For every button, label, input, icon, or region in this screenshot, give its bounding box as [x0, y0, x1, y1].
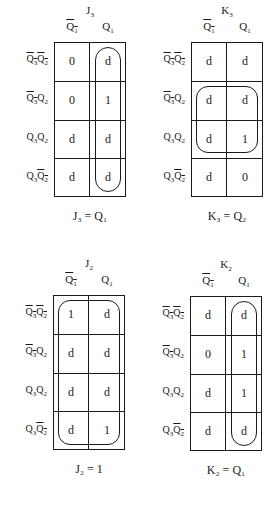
- variable-letter: Q: [163, 346, 170, 357]
- complement-variable: Q1: [66, 20, 77, 32]
- title-subscript: 3: [90, 11, 94, 19]
- grouping-loop: [231, 301, 257, 446]
- row-header: Q3Q2: [134, 424, 184, 438]
- complement-variable: Q2: [173, 307, 184, 318]
- variable-subscript: 2: [44, 390, 48, 398]
- variable: Q3: [27, 170, 38, 181]
- variable-letter: Q: [163, 424, 170, 435]
- column-header: Q1: [90, 20, 126, 35]
- variable-subscript: 2: [45, 137, 49, 145]
- variable-subscript: 2: [44, 351, 48, 359]
- equation-caption: K₃ = Q₂: [177, 209, 277, 224]
- equation-caption: J₃ = Q₁: [40, 209, 140, 224]
- row-header: Q3Q2: [0, 92, 48, 106]
- variable: Q1: [239, 20, 250, 32]
- variable: Q3: [26, 384, 37, 395]
- kmap-cell: 0: [227, 158, 263, 197]
- variable-letter: Q: [36, 384, 43, 395]
- grouping-loop: [196, 86, 258, 154]
- variable-letter: Q: [164, 131, 171, 142]
- variable-subscript: 1: [211, 27, 215, 35]
- variable-letter: Q: [36, 345, 43, 356]
- row-header: Q3Q2: [0, 345, 47, 359]
- column-header: Q1: [226, 274, 262, 289]
- grouping-loop: [58, 300, 120, 445]
- variable-letter: Q: [164, 170, 171, 181]
- variable-letter: Q: [173, 346, 180, 357]
- complement-variable: Q3: [163, 346, 174, 357]
- variable: Q2: [174, 92, 185, 103]
- variable-letter: Q: [36, 306, 43, 317]
- variable: Q2: [173, 346, 184, 357]
- variable: Q3: [164, 131, 175, 142]
- variable-letter: Q: [174, 131, 181, 142]
- row-header: Q3Q2: [0, 423, 47, 437]
- kmap-cell: d: [190, 374, 226, 413]
- row-header: Q3Q2: [0, 53, 48, 67]
- variable-letter: Q: [27, 170, 34, 181]
- variable-letter: Q: [164, 92, 171, 103]
- complement-variable: Q3: [164, 92, 175, 103]
- variable-letter: Q: [26, 306, 33, 317]
- variable-subscript: 1: [246, 281, 250, 289]
- complement-variable: Q3: [27, 53, 38, 64]
- variable-subscript: 2: [182, 98, 186, 106]
- column-header: Q1: [54, 20, 90, 35]
- variable-subscript: 1: [74, 27, 78, 35]
- variable-subscript: 2: [181, 352, 185, 360]
- variable: Q2: [37, 92, 48, 103]
- kmap-cell: d: [227, 42, 263, 81]
- kmap-title: K2: [211, 258, 241, 273]
- complement-variable: Q1: [65, 273, 76, 285]
- complement-variable: Q2: [36, 423, 47, 434]
- variable-letter: Q: [26, 423, 33, 434]
- variable: Q3: [27, 131, 38, 142]
- variable: Q1: [101, 273, 112, 285]
- variable-subscript: 1: [210, 281, 214, 289]
- variable: Q2: [174, 131, 185, 142]
- complement-variable: Q2: [37, 53, 48, 64]
- variable-subscript: 1: [109, 280, 113, 288]
- variable: Q2: [173, 385, 184, 396]
- complement-variable: Q2: [36, 306, 47, 317]
- column-header: Q1: [190, 274, 226, 289]
- row-header: Q3Q2: [135, 170, 185, 184]
- complement-variable: Q2: [37, 170, 48, 181]
- kmap-cell: d: [191, 158, 227, 197]
- row-header: Q3Q2: [0, 306, 47, 320]
- variable-letter: Q: [173, 424, 180, 435]
- title-subscript: 2: [89, 264, 93, 272]
- kmap-cell: d: [191, 42, 227, 81]
- variable-letter: Q: [173, 307, 180, 318]
- variable-subscript: 1: [110, 27, 114, 35]
- complement-variable: Q2: [174, 170, 185, 181]
- variable-letter: Q: [37, 131, 44, 142]
- variable-subscript: 2: [44, 312, 48, 320]
- grouping-loop: [95, 47, 121, 192]
- variable-subscript: 2: [45, 59, 49, 67]
- complement-variable: Q3: [26, 345, 37, 356]
- equation-caption: K₂ = Q₁: [176, 463, 276, 478]
- variable-subscript: 2: [182, 137, 186, 145]
- variable: Q3: [164, 170, 175, 181]
- variable: Q1: [102, 20, 113, 32]
- column-header: Q1: [89, 273, 125, 288]
- equation-caption: J₂ = 1: [39, 462, 139, 477]
- variable-letter: Q: [174, 170, 181, 181]
- variable: Q3: [163, 385, 174, 396]
- column-header: Q1: [53, 273, 89, 288]
- kmap-cell: d: [190, 412, 226, 451]
- variable-letter: Q: [36, 423, 43, 434]
- row-header: Q3Q2: [135, 92, 185, 106]
- variable-subscript: 2: [182, 176, 186, 184]
- row-header: Q3Q2: [0, 170, 48, 184]
- variable-letter: Q: [26, 345, 33, 356]
- variable-letter: Q: [173, 385, 180, 396]
- complement-variable: Q3: [27, 92, 38, 103]
- variable-letter: Q: [27, 53, 34, 64]
- variable-subscript: 2: [181, 313, 185, 321]
- complement-variable: Q2: [174, 53, 185, 64]
- variable-letter: Q: [163, 307, 170, 318]
- variable: Q1: [238, 274, 249, 286]
- row-header: Q3Q2: [134, 307, 184, 321]
